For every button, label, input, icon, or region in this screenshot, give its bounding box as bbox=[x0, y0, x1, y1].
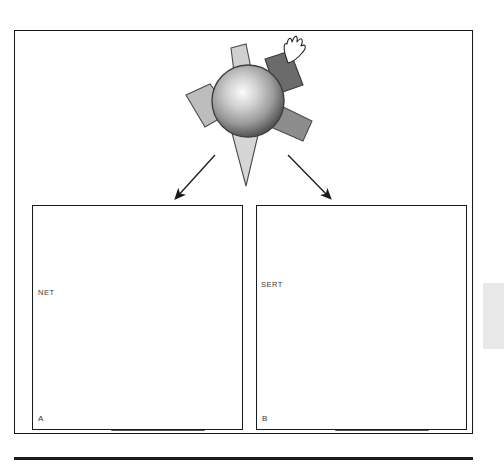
panel-letter-b: B bbox=[262, 414, 268, 423]
figure-root: NET SERT A B bbox=[0, 0, 504, 464]
burst-icon bbox=[284, 36, 305, 63]
molecule-sphere bbox=[212, 65, 284, 137]
sert-label: SERT bbox=[261, 280, 283, 289]
panel-a-frame bbox=[32, 205, 243, 430]
central-drug-molecule bbox=[186, 36, 312, 186]
arrow-to-panel-a bbox=[176, 155, 215, 198]
arrow-to-panel-b bbox=[288, 155, 330, 198]
panel-letter-a: A bbox=[38, 414, 44, 423]
net-label: NET bbox=[38, 288, 55, 297]
panel-b-frame bbox=[256, 205, 467, 430]
